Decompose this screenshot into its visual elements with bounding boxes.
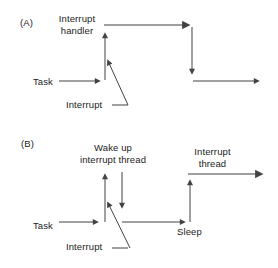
b-wake-up-interrupt-thread-label: Wake up interrupt thread: [70, 142, 156, 165]
b-interrupt-thread-label-line1: Interrupt: [184, 146, 241, 158]
a-interrupt-label: Interrupt: [66, 99, 102, 111]
b-sleep-label: Sleep: [177, 226, 202, 238]
a-interrupt-handler-label-line1: Interrupt: [48, 13, 106, 25]
b-wake-up-label-line1: Wake up: [70, 142, 156, 154]
b-wake-up-label-line2: interrupt thread: [70, 154, 156, 166]
interrupt-handling-diagram: (A) Interrupt handler Task Interrupt (B)…: [0, 0, 278, 268]
b-interrupt-thread-label-line2: thread: [184, 158, 241, 170]
a-interrupt-handler-label-line2: handler: [48, 25, 106, 37]
b-interrupt-label: Interrupt: [66, 241, 102, 253]
diagram-a-label: (A): [20, 17, 33, 29]
a-interrupt-handler-label: Interrupt handler: [48, 13, 106, 36]
a-interrupt-callout-pointer: [108, 61, 128, 105]
a-task-label: Task: [33, 76, 53, 88]
b-task-label: Task: [33, 220, 53, 232]
b-interrupt-callout-pointer: [108, 203, 130, 248]
diagram-b-label: (B): [21, 138, 34, 150]
b-interrupt-thread-label: Interrupt thread: [184, 146, 241, 169]
